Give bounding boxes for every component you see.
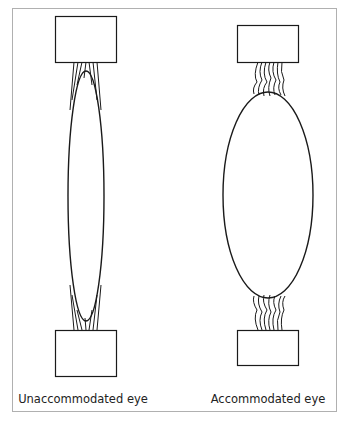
- ciliary-body-top: [238, 26, 299, 63]
- zonule-fibers-bottom: [253, 295, 285, 330]
- eye-accommodation-diagram: Unaccommodated eye Accommodated eye: [0, 0, 346, 422]
- ciliary-body-top: [56, 17, 117, 63]
- label-accommodated: Accommodated eye: [211, 392, 326, 406]
- accommodated-panel: Accommodated eye: [211, 26, 326, 407]
- label-unaccommodated: Unaccommodated eye: [18, 392, 148, 406]
- lens-accommodated: [223, 92, 313, 298]
- ciliary-body-bottom: [238, 331, 299, 366]
- lens-unaccommodated: [68, 71, 104, 321]
- zonule-fibers-top: [253, 62, 285, 96]
- ciliary-body-bottom: [56, 331, 117, 377]
- unaccommodated-panel: Unaccommodated eye: [18, 17, 148, 407]
